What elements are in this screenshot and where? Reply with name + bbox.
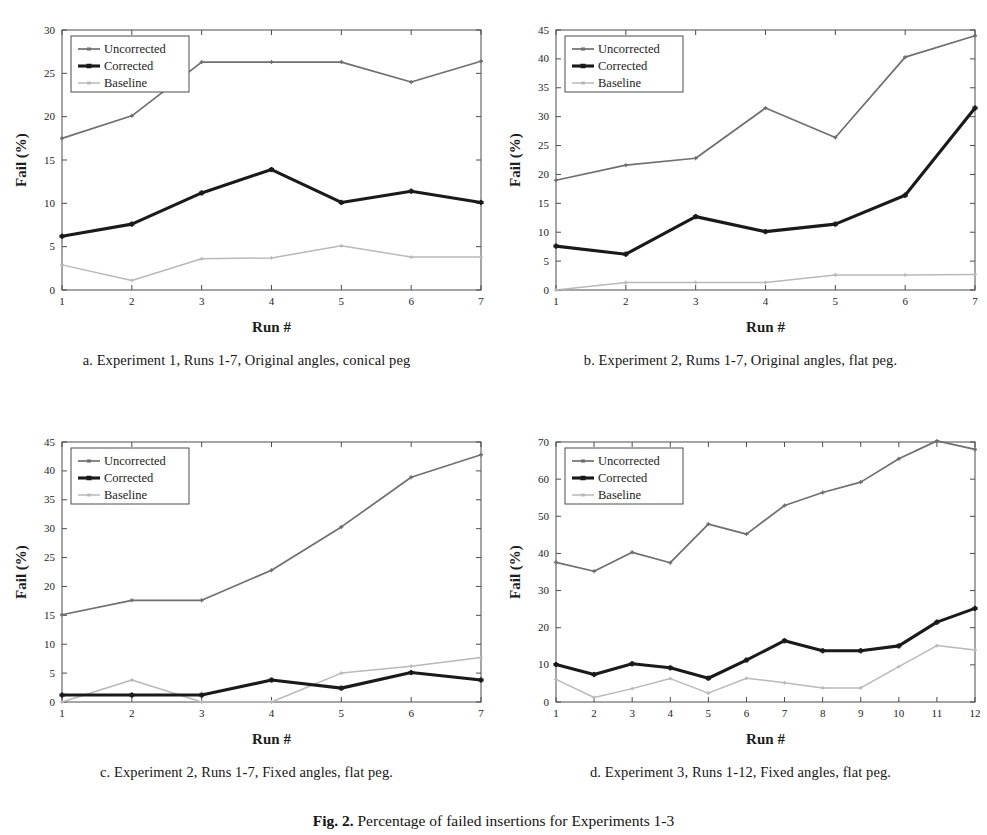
series-line-corrected — [62, 673, 481, 696]
y-tick-label: 30 — [538, 110, 550, 122]
y-axis-title: Fail (%) — [13, 545, 30, 599]
chart-a: 0510152025301234567Run #Fail (%)Uncorrec… — [0, 0, 493, 348]
x-axis-title: Run # — [746, 319, 785, 335]
chart-b: 0510152025303540451234567Run #Fail (%)Un… — [494, 0, 987, 348]
legend-label-uncorrected: Uncorrected — [598, 42, 661, 56]
y-tick-label: 10 — [44, 197, 56, 209]
plot-area-a: 0510152025301234567Run #Fail (%)Uncorrec… — [0, 0, 493, 348]
x-tick-label: 11 — [932, 707, 943, 719]
y-tick-label: 0 — [50, 696, 56, 708]
y-tick-label: 30 — [44, 24, 56, 36]
y-tick-label: 20 — [538, 168, 550, 180]
series-line-corrected — [556, 608, 975, 678]
x-tick-label: 12 — [970, 707, 981, 719]
x-tick-label: 1 — [553, 295, 559, 307]
x-tick-label: 6 — [744, 707, 750, 719]
x-tick-label: 4 — [269, 707, 275, 719]
x-tick-label: 5 — [833, 295, 839, 307]
y-tick-label: 25 — [538, 139, 550, 151]
y-tick-label: 15 — [538, 197, 550, 209]
y-axis-title: Fail (%) — [507, 133, 524, 187]
y-tick-label: 20 — [44, 580, 56, 592]
x-tick-label: 9 — [858, 707, 864, 719]
y-tick-label: 45 — [44, 436, 56, 448]
series-line-corrected — [62, 170, 481, 237]
legend-label-uncorrected: Uncorrected — [104, 42, 167, 56]
x-tick-label: 2 — [623, 295, 629, 307]
figure-caption-label: Fig. 2. — [313, 812, 354, 829]
y-tick-label: 40 — [44, 464, 56, 476]
legend: UncorrectedCorrectedBaseline — [71, 448, 189, 504]
x-tick-label: 5 — [339, 707, 345, 719]
figure-caption: Fig. 2. Percentage of failed insertions … — [0, 812, 987, 830]
y-tick-label: 35 — [44, 493, 56, 505]
y-tick-label: 30 — [538, 584, 550, 596]
y-tick-label: 15 — [44, 154, 56, 166]
x-tick-label: 4 — [763, 295, 769, 307]
x-tick-label: 7 — [782, 707, 788, 719]
legend: UncorrectedCorrectedBaseline — [565, 36, 683, 92]
legend-label-corrected: Corrected — [598, 59, 648, 73]
x-tick-label: 2 — [591, 707, 597, 719]
x-tick-label: 1 — [59, 295, 65, 307]
y-tick-label: 15 — [44, 609, 56, 621]
panel-a-caption: a. Experiment 1, Runs 1-7, Original angl… — [0, 352, 493, 369]
chart-d: 010203040506070123456789101112Run #Fail … — [494, 412, 987, 760]
x-tick-label: 5 — [339, 295, 345, 307]
x-tick-label: 2 — [129, 707, 135, 719]
legend-label-uncorrected: Uncorrected — [104, 454, 167, 468]
x-tick-label: 6 — [408, 707, 414, 719]
legend: UncorrectedCorrectedBaseline — [71, 36, 189, 92]
y-axis-title: Fail (%) — [507, 545, 524, 599]
x-tick-label: 1 — [553, 707, 559, 719]
x-tick-label: 1 — [59, 707, 65, 719]
y-tick-label: 0 — [544, 696, 550, 708]
legend-label-corrected: Corrected — [104, 59, 154, 73]
y-tick-label: 20 — [538, 621, 550, 633]
x-axis-title: Run # — [746, 731, 785, 747]
x-tick-label: 6 — [902, 295, 908, 307]
x-tick-label: 7 — [478, 707, 484, 719]
x-axis-title: Run # — [252, 731, 291, 747]
plot-area-b: 0510152025303540451234567Run #Fail (%)Un… — [494, 0, 987, 348]
legend-label-corrected: Corrected — [598, 471, 648, 485]
x-tick-label: 7 — [478, 295, 484, 307]
panel-a: 0510152025301234567Run #Fail (%)Uncorrec… — [0, 0, 493, 403]
x-tick-label: 3 — [629, 707, 635, 719]
panel-c-caption: c. Experiment 2, Runs 1-7, Fixed angles,… — [0, 764, 493, 781]
x-tick-label: 6 — [408, 295, 414, 307]
legend-label-baseline: Baseline — [104, 76, 147, 90]
y-tick-label: 10 — [538, 658, 550, 670]
legend-label-baseline: Baseline — [104, 488, 147, 502]
y-tick-label: 0 — [50, 284, 56, 296]
panel-b-caption: b. Experiment 2, Rums 1-7, Original angl… — [494, 352, 987, 369]
panel-b: 0510152025303540451234567Run #Fail (%)Un… — [494, 0, 987, 403]
legend-label-baseline: Baseline — [598, 76, 641, 90]
x-tick-label: 7 — [972, 295, 978, 307]
y-tick-label: 20 — [44, 110, 56, 122]
x-tick-label: 4 — [668, 707, 674, 719]
panel-d-caption: d. Experiment 3, Runs 1-12, Fixed angles… — [494, 764, 987, 781]
x-tick-label: 3 — [693, 295, 699, 307]
y-tick-label: 5 — [50, 667, 56, 679]
y-tick-label: 10 — [44, 638, 56, 650]
panel-c: 0510152025303540451234567Run #Fail (%)Un… — [0, 412, 493, 815]
y-tick-label: 45 — [538, 24, 550, 36]
series-line-baseline — [62, 246, 481, 281]
y-tick-label: 40 — [538, 547, 550, 559]
series-line-baseline — [556, 646, 975, 698]
legend-label-corrected: Corrected — [104, 471, 154, 485]
y-tick-label: 25 — [44, 67, 56, 79]
y-tick-label: 50 — [538, 510, 550, 522]
legend-label-uncorrected: Uncorrected — [598, 454, 661, 468]
x-axis-title: Run # — [252, 319, 291, 335]
panel-grid: 0510152025301234567Run #Fail (%)Uncorrec… — [0, 0, 987, 806]
x-tick-label: 2 — [129, 295, 135, 307]
y-tick-label: 35 — [538, 81, 550, 93]
plot-area-c: 0510152025303540451234567Run #Fail (%)Un… — [0, 412, 493, 760]
x-tick-label: 10 — [893, 707, 905, 719]
y-tick-label: 10 — [538, 226, 550, 238]
legend-label-baseline: Baseline — [598, 488, 641, 502]
x-tick-label: 3 — [199, 295, 205, 307]
panel-d: 010203040506070123456789101112Run #Fail … — [494, 412, 987, 815]
